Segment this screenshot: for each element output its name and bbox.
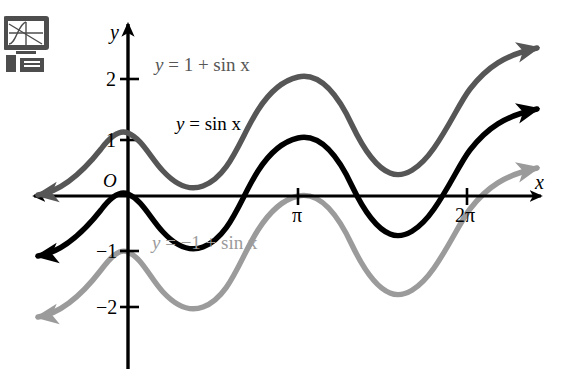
annotation-middle-eq: =	[189, 113, 200, 134]
y-tick-label-1: 1	[106, 130, 116, 150]
y-tick-label-minus-2: −2	[96, 297, 117, 317]
annotation-bottom-rhs: −1 + sin x	[181, 232, 258, 253]
annotation-top-eq: =	[168, 54, 179, 75]
y-tick-label-2: 2	[106, 69, 116, 89]
annotation-middle-lhs: y	[176, 113, 184, 134]
annotation-minus-one-plus-sin-x: y = −1 + sin x	[152, 233, 258, 252]
annotation-bottom-lhs: y	[152, 232, 160, 253]
x-axis-label: x	[535, 172, 544, 192]
x-tick-label-pi: π	[292, 205, 302, 225]
annotation-top-rhs: 1 + sin x	[184, 54, 250, 75]
plot-area	[0, 0, 574, 369]
origin-label: O	[103, 171, 117, 190]
y-axis-label: y	[110, 22, 119, 42]
annotation-middle-rhs: sin x	[205, 113, 241, 134]
annotation-sin-x: y = sin x	[176, 114, 241, 133]
annotation-one-plus-sin-x: y = 1 + sin x	[155, 55, 250, 74]
annotation-top-lhs: y	[155, 54, 163, 75]
sine-curves-figure: y x O 2 1 −1 −2 π 2π y = 1 + sin x y = s…	[0, 0, 574, 369]
x-tick-label-2pi: 2π	[455, 205, 475, 225]
y-tick-label-minus-1: −1	[96, 241, 117, 261]
annotation-bottom-eq: =	[165, 232, 176, 253]
